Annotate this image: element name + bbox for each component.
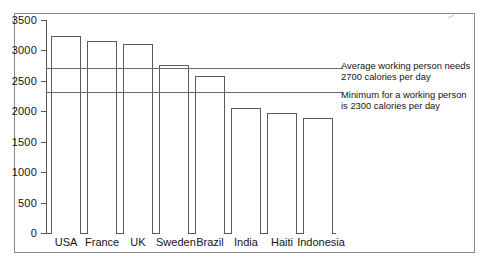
y-tick-mark-3000 [41, 50, 46, 51]
reference-line-2300 [46, 92, 343, 93]
y-tick-mark-3500 [41, 20, 46, 21]
y-tick-label-0: 0 [31, 228, 37, 239]
y-tick-mark-2000 [41, 111, 46, 112]
bar-chart-figure: 3500 3000 2500 2000 1500 1000 500 0 USA … [0, 0, 489, 267]
x-tick-label-usa: USA [51, 236, 81, 248]
annotation-minimum-line2: is 2300 calories per day [341, 100, 473, 111]
y-tick-label-2000: 2000 [12, 106, 37, 117]
y-tick-mark-2500 [41, 81, 46, 82]
y-tick-mark-1000 [41, 172, 46, 173]
y-tick-label-3000: 3000 [12, 45, 37, 56]
bar-france [87, 41, 117, 234]
bar-indonesia [303, 118, 333, 234]
y-tick-label-1500: 1500 [12, 137, 37, 148]
y-tick-mark-1500 [41, 142, 46, 143]
annotation-minimum-line1: Minimum for a working person [341, 89, 473, 100]
annotation-minimum-calories: Minimum for a working person is 2300 cal… [341, 89, 473, 112]
x-tick-label-france: France [85, 236, 119, 248]
annotation-average-calories: Average working person needs 2700 calori… [341, 60, 473, 83]
y-tick-mark-500 [41, 203, 46, 204]
y-tick-label-3500: 3500 [12, 15, 37, 26]
bar-usa [51, 36, 81, 234]
x-tick-label-india: India [231, 236, 261, 248]
reference-line-2700 [46, 68, 343, 69]
x-tick-label-brazil: Brazil [194, 236, 226, 248]
y-tick-label-500: 500 [18, 198, 37, 209]
bar-brazil [195, 76, 225, 234]
x-tick-label-indonesia: Indonesia [297, 236, 345, 248]
x-tick-label-sweden: Sweden [156, 236, 192, 248]
annotation-average-line1: Average working person needs [341, 60, 473, 71]
bar-haiti [267, 113, 297, 234]
y-tick-label-1000: 1000 [12, 167, 37, 178]
bar-sweden [159, 65, 189, 234]
bar-uk [123, 44, 153, 234]
y-tick-mark-0 [41, 233, 46, 234]
x-tick-label-uk: UK [123, 236, 153, 248]
bar-india [231, 108, 261, 234]
y-axis-line [46, 20, 47, 234]
x-tick-label-haiti: Haiti [267, 236, 297, 248]
y-tick-label-2500: 2500 [12, 76, 37, 87]
annotation-average-line2: 2700 calories per day [341, 71, 473, 82]
